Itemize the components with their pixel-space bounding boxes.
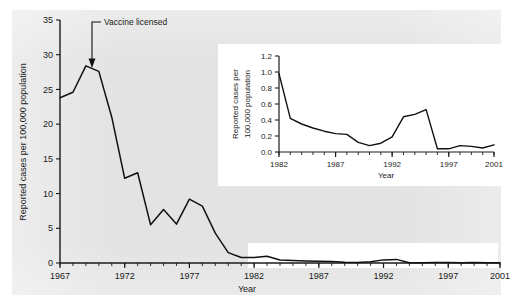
y-tick-label: 0.2: [261, 132, 273, 141]
x-tick-label: 2001: [485, 160, 503, 169]
x-tick-label: 1992: [383, 160, 401, 169]
y-tick-label: 0.0: [261, 148, 273, 157]
inset-y-tick-group: 0.00.20.40.60.81.01.2: [261, 52, 279, 157]
x-tick-label: 1987: [327, 160, 345, 169]
figure-root: 05101520253035 1967197219771982198719921…: [0, 0, 513, 307]
inset-chart: 0.00.20.40.60.81.01.2 198219871992199720…: [0, 0, 513, 307]
y-tick-label: 0.8: [261, 84, 273, 93]
inset-x-tick-group: 19821987199219972001: [270, 152, 503, 169]
x-tick-label: 1982: [270, 160, 288, 169]
y-tick-label: 0.6: [261, 100, 273, 109]
x-tick-label: 1997: [440, 160, 458, 169]
inset-x-axis-title: Year: [378, 171, 395, 180]
inset-series-line: [279, 74, 494, 149]
y-tick-label: 1.2: [261, 52, 273, 61]
inset-chart-axes: [279, 56, 494, 152]
y-tick-label: 1.0: [261, 68, 273, 77]
y-tick-label: 0.4: [261, 116, 273, 125]
inset-y-axis-title-line1: Reported cases per: [231, 69, 240, 139]
inset-y-axis-title-line2: 100,000 population: [243, 70, 252, 138]
